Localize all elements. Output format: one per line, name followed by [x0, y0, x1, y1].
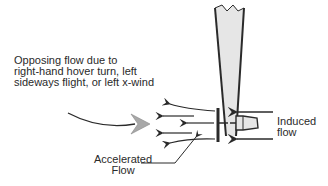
- diagram-svg: [0, 0, 328, 186]
- accelerated-flow-label: Accelerated Flow: [94, 154, 152, 176]
- diagram-canvas: Opposing flow due to right-hand hover tu…: [0, 0, 328, 186]
- opposing-flow-label: Opposing flow due to right-hand hover tu…: [14, 55, 154, 88]
- accelerated-flow-arrows: [163, 104, 215, 143]
- opposing-flow-arrow: [68, 113, 150, 134]
- induced-flow-label: Induced flow: [277, 116, 316, 138]
